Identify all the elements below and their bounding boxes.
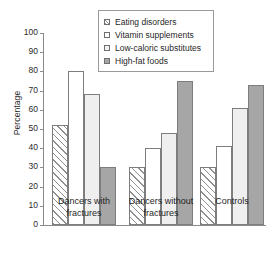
legend-swatch-icon — [104, 32, 110, 38]
y-tick-mark — [40, 129, 44, 130]
legend-item: Vitamin supplements — [104, 28, 208, 41]
legend-swatch-icon — [104, 45, 110, 51]
legend: Eating disordersVitamin supplementsLow-c… — [98, 10, 214, 72]
y-tick-label: 10 — [29, 200, 38, 211]
y-tick-mark — [40, 167, 44, 168]
y-tick-label: 70 — [29, 85, 38, 96]
legend-item-label: High-fat foods — [115, 56, 168, 66]
legend-item: Low-caloric substitutes — [104, 41, 208, 54]
legend-swatch-icon — [104, 58, 110, 64]
y-tick-mark — [40, 225, 44, 226]
legend-item: Eating disorders — [104, 15, 208, 28]
bar — [216, 146, 232, 225]
y-axis-title: Percentage — [12, 58, 22, 168]
y-tick-mark — [40, 148, 44, 149]
y-tick-label: 40 — [29, 142, 38, 153]
y-tick-label: 60 — [29, 104, 38, 115]
y-tick-label: 50 — [29, 123, 38, 134]
bar-chart: Percentage 1009080706050403020100 Dancer… — [0, 0, 274, 268]
x-axis-line — [43, 225, 266, 226]
y-tick-mark — [40, 52, 44, 53]
y-tick-label: 0 — [33, 219, 38, 230]
y-tick-mark — [40, 91, 44, 92]
y-tick-label: 30 — [29, 161, 38, 172]
legend-item: High-fat foods — [104, 54, 208, 67]
legend-swatch-icon — [104, 19, 110, 25]
y-tick-mark — [40, 33, 44, 34]
x-axis-group-label: Controls — [187, 196, 274, 208]
y-tick-mark — [40, 110, 44, 111]
y-tick-mark — [40, 187, 44, 188]
legend-item-label: Eating disorders — [115, 17, 176, 27]
y-tick-mark — [40, 71, 44, 72]
legend-item-label: Vitamin supplements — [115, 30, 194, 40]
legend-item-label: Low-caloric substitutes — [115, 43, 201, 53]
y-tick-label: 80 — [29, 65, 38, 76]
y-tick-label: 90 — [29, 46, 38, 57]
y-tick-label: 100 — [24, 27, 38, 38]
y-tick-label: 20 — [29, 181, 38, 192]
